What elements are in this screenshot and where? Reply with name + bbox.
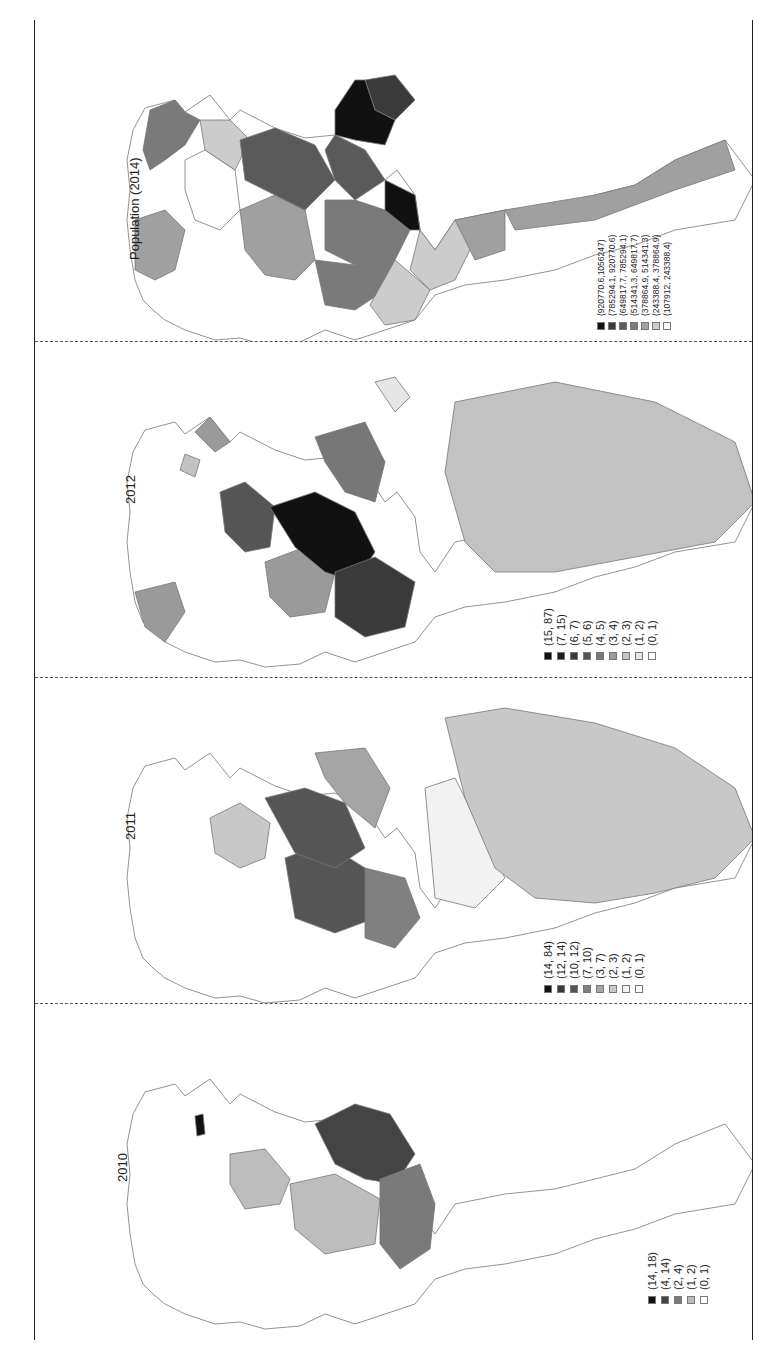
legend-item: (2, 3) bbox=[619, 608, 632, 660]
legend-swatch bbox=[570, 652, 578, 660]
legend-swatch bbox=[583, 652, 591, 660]
legend-item: (0, 1) bbox=[697, 1252, 710, 1304]
legend-label: (2, 3) bbox=[620, 620, 632, 646]
legend-swatch bbox=[661, 1296, 669, 1304]
legend-item: (15, 87) bbox=[541, 608, 554, 660]
legend-swatch bbox=[609, 652, 617, 660]
legend-item: (10, 12) bbox=[567, 941, 580, 993]
legend-swatch bbox=[630, 322, 638, 330]
legend-item: (1, 2) bbox=[632, 608, 645, 660]
legend-label: (3, 7) bbox=[594, 953, 606, 979]
legend-item: (378864.9, 514341.3) bbox=[639, 235, 650, 330]
panel-title: 2011 bbox=[123, 812, 138, 840]
legend-label: (0, 1) bbox=[646, 620, 658, 646]
legend-label: (4, 5) bbox=[594, 620, 606, 646]
legend-item: (4, 14) bbox=[658, 1252, 671, 1304]
legend-swatch bbox=[648, 1296, 656, 1304]
legend-swatch bbox=[557, 985, 565, 993]
legend-item: (0, 1) bbox=[632, 941, 645, 993]
legend-item: (14, 84) bbox=[541, 941, 554, 993]
legend-swatch bbox=[619, 322, 627, 330]
legend-item: (1, 2) bbox=[684, 1252, 697, 1304]
legend-label: (1, 2) bbox=[620, 953, 632, 979]
legend-swatch bbox=[641, 322, 649, 330]
map-panel-2010: 2010 (14, 18) (4, 14) (2, 4) (1, 2) (0, … bbox=[35, 1004, 752, 1340]
legend: (14, 84) (12, 14) (10, 12) (7, 10) (3, 7… bbox=[541, 941, 645, 993]
map-panel-2012: 2012 (15, 87) (7, 15) (6, 7) (5, 6) (4, … bbox=[35, 342, 752, 677]
legend-label: (4, 14) bbox=[659, 1258, 671, 1290]
legend-label: (378864.9, 514341.3) bbox=[640, 235, 650, 316]
legend-swatch bbox=[544, 652, 552, 660]
legend-item: (514341.3, 649817.7) bbox=[628, 235, 639, 330]
legend-swatch bbox=[663, 322, 671, 330]
legend-label: (920770.6,1056247) bbox=[596, 239, 606, 316]
map-panel-2011: 2011 (14, 84) (12, 14) (10, 12) (7, 10) … bbox=[35, 678, 752, 1003]
legend-label: (6, 7) bbox=[568, 620, 580, 646]
legend-item: (920770.6,1056247) bbox=[595, 235, 606, 330]
legend-item: (0, 1) bbox=[645, 608, 658, 660]
legend-item: (14, 18) bbox=[645, 1252, 658, 1304]
legend-item: (5, 6) bbox=[580, 608, 593, 660]
legend-swatch bbox=[635, 652, 643, 660]
legend-item: (785294.1, 920770.6) bbox=[606, 235, 617, 330]
legend-swatch bbox=[557, 652, 565, 660]
legend-label: (107912, 243388.4) bbox=[662, 242, 672, 316]
legend-swatch bbox=[622, 985, 630, 993]
legend-label: (243388.4, 378864.9) bbox=[651, 235, 661, 316]
legend-label: (1, 2) bbox=[685, 1264, 697, 1290]
legend-label: (7, 10) bbox=[581, 947, 593, 979]
legend-swatch bbox=[687, 1296, 695, 1304]
legend-item: (6, 7) bbox=[567, 608, 580, 660]
legend-item: (2, 3) bbox=[606, 941, 619, 993]
legend-swatch bbox=[648, 652, 656, 660]
legend: (920770.6,1056247) (785294.1, 920770.6) … bbox=[595, 235, 672, 330]
legend-item: (107912, 243388.4) bbox=[661, 235, 672, 330]
legend-label: (3, 4) bbox=[607, 620, 619, 646]
legend-swatch bbox=[570, 985, 578, 993]
legend-label: (1, 2) bbox=[633, 620, 645, 646]
legend-item: (1, 2) bbox=[619, 941, 632, 993]
legend-label: (5, 6) bbox=[581, 620, 593, 646]
panel-title: 2012 bbox=[123, 475, 138, 504]
figure-frame-right bbox=[752, 20, 753, 1340]
legend-label: (0, 1) bbox=[633, 953, 645, 979]
legend-label: (14, 18) bbox=[646, 1252, 658, 1290]
legend-swatch bbox=[608, 322, 616, 330]
legend-item: (649817.7, 785294.1) bbox=[617, 235, 628, 330]
legend-item: (7, 15) bbox=[554, 608, 567, 660]
legend-label: (2, 3) bbox=[607, 953, 619, 979]
legend-swatch bbox=[609, 985, 617, 993]
legend-label: (0, 1) bbox=[698, 1264, 710, 1290]
legend-label: (14, 84) bbox=[542, 941, 554, 979]
legend: (14, 18) (4, 14) (2, 4) (1, 2) (0, 1) bbox=[645, 1252, 710, 1304]
legend-label: (12, 14) bbox=[555, 941, 567, 979]
panel-title: 2010 bbox=[115, 1153, 130, 1182]
legend-swatch bbox=[597, 322, 605, 330]
legend-item: (2, 4) bbox=[671, 1252, 684, 1304]
legend-label: (15, 87) bbox=[542, 608, 554, 646]
legend-item: (243388.4, 378864.9) bbox=[650, 235, 661, 330]
legend-label: (2, 4) bbox=[672, 1264, 684, 1290]
legend-label: (785294.1, 920770.6) bbox=[607, 235, 617, 316]
legend-swatch bbox=[596, 652, 604, 660]
panel-title: Population (2014) bbox=[127, 157, 142, 260]
map-panel-population-2014: Population (2014) (920770.6,1056247) (78… bbox=[35, 20, 752, 341]
legend-item: (3, 4) bbox=[606, 608, 619, 660]
legend-label: (514341.3, 649817.7) bbox=[629, 235, 639, 316]
legend-swatch bbox=[544, 985, 552, 993]
legend-item: (4, 5) bbox=[593, 608, 606, 660]
legend-swatch bbox=[635, 985, 643, 993]
legend-label: (7, 15) bbox=[555, 614, 567, 646]
legend-label: (10, 12) bbox=[568, 941, 580, 979]
legend: (15, 87) (7, 15) (6, 7) (5, 6) (4, 5) (3… bbox=[541, 608, 658, 660]
legend-item: (7, 10) bbox=[580, 941, 593, 993]
legend-swatch bbox=[583, 985, 591, 993]
legend-item: (12, 14) bbox=[554, 941, 567, 993]
legend-item: (3, 7) bbox=[593, 941, 606, 993]
legend-label: (649817.7, 785294.1) bbox=[618, 235, 628, 316]
legend-swatch bbox=[652, 322, 660, 330]
legend-swatch bbox=[596, 985, 604, 993]
legend-swatch bbox=[674, 1296, 682, 1304]
legend-swatch bbox=[622, 652, 630, 660]
legend-swatch bbox=[700, 1296, 708, 1304]
